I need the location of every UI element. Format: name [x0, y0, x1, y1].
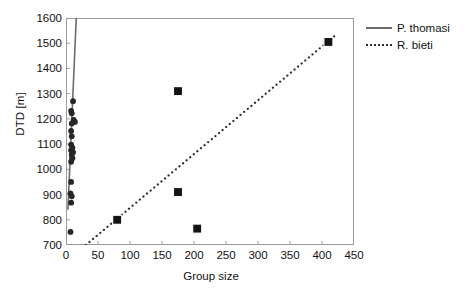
y-tick-label: 1300 [18, 88, 62, 100]
data-point-circle [68, 229, 74, 235]
plot-area [66, 18, 354, 245]
legend-label: R. bieti [397, 39, 433, 51]
plot-border [67, 19, 354, 245]
y-tick-label: 1000 [18, 163, 62, 175]
y-tick-label: 1500 [18, 37, 62, 49]
data-markers [68, 37, 333, 234]
data-point-circle [69, 121, 75, 127]
data-point-square [193, 224, 202, 233]
legend-item-r-bieti[interactable]: R. bieti [366, 36, 472, 53]
data-point-circle [70, 98, 76, 104]
legend: P. thomasiR. bieti [366, 19, 472, 53]
regression-lines [68, 18, 335, 245]
x-axis-title: Group size [68, 270, 354, 282]
data-point-circle [68, 179, 74, 185]
data-point-square [324, 37, 333, 46]
legend-swatch-solid-line-icon [366, 22, 392, 34]
data-point-circle [68, 159, 74, 165]
data-point-square [174, 87, 183, 96]
legend-item-p-thomasi[interactable]: P. thomasi [366, 19, 472, 36]
regression-line-r-bieti [86, 36, 335, 245]
data-point-square [174, 188, 183, 197]
y-tick-label: 800 [18, 214, 62, 226]
y-tick-label: 1100 [18, 138, 62, 150]
legend-line-glyph [366, 44, 392, 46]
data-point-circle [69, 193, 75, 199]
legend-line-glyph [366, 27, 392, 29]
data-point-square [113, 215, 122, 224]
plot-tick-marks [66, 18, 354, 245]
x-tick-label: 450 [334, 249, 374, 261]
data-point-circle [68, 128, 74, 134]
x-axis-tick-labels: 050100150200250300350400450 [0, 249, 474, 265]
chart-figure: DTD [m] 16001500140013001200110010009008… [0, 0, 474, 297]
legend-swatch-dotted-line-icon [366, 39, 392, 51]
y-tick-label: 1200 [18, 113, 62, 125]
y-tick-label: 1600 [18, 12, 62, 24]
legend-label: P. thomasi [397, 22, 450, 34]
data-point-circle [69, 110, 75, 116]
data-point-circle [69, 133, 75, 139]
y-tick-label: 1400 [18, 62, 62, 74]
y-tick-label: 900 [18, 189, 62, 201]
data-point-circle [68, 200, 74, 206]
plot-frame [67, 19, 354, 245]
